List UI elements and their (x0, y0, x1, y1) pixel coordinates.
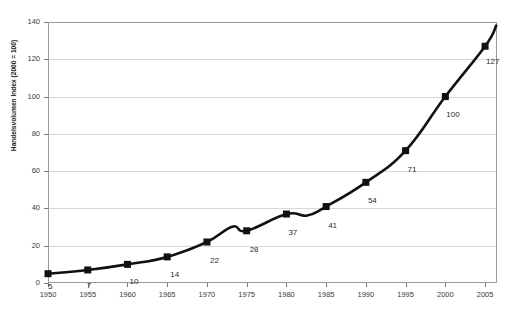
x-tick-label: 1990 (346, 291, 386, 299)
gridline (49, 246, 496, 247)
x-tick-label: 1975 (227, 291, 267, 299)
data-point-label: 37 (288, 229, 297, 237)
chart-container: Handelsvolumen Index (2000 = 100) 020406… (0, 0, 528, 311)
x-tick-label: 2000 (425, 291, 465, 299)
x-tick-mark (445, 283, 446, 287)
gridline (49, 97, 496, 98)
y-tick-label: 120 (10, 55, 40, 63)
data-point-label: 7 (87, 282, 91, 290)
x-tick-mark (127, 283, 128, 287)
y-tick-mark (44, 171, 48, 172)
x-tick-label: 1985 (306, 291, 346, 299)
y-tick-label: 100 (10, 93, 40, 101)
x-tick-label: 1995 (386, 291, 426, 299)
y-tick-label: 40 (10, 204, 40, 212)
data-point-label: 127 (486, 58, 499, 66)
y-tick-mark (44, 59, 48, 60)
data-point-label: 28 (250, 246, 259, 254)
x-tick-label: 1955 (68, 291, 108, 299)
x-tick-mark (286, 283, 287, 287)
y-tick-mark (44, 208, 48, 209)
gridline (49, 134, 496, 135)
x-tick-label: 1970 (187, 291, 227, 299)
x-tick-mark (366, 283, 367, 287)
x-tick-mark (406, 283, 407, 287)
x-tick-label: 1980 (266, 291, 306, 299)
x-tick-mark (207, 283, 208, 287)
data-point-label: 14 (170, 271, 179, 279)
plot-area (48, 22, 497, 283)
y-tick-label: 80 (10, 130, 40, 138)
data-point-label: 100 (446, 111, 459, 119)
y-tick-mark (44, 134, 48, 135)
data-point-label: 54 (368, 197, 377, 205)
x-tick-mark (485, 283, 486, 287)
x-tick-label: 1960 (107, 291, 147, 299)
data-point-label: 71 (408, 166, 417, 174)
y-tick-label: 20 (10, 242, 40, 250)
x-tick-label: 1965 (147, 291, 187, 299)
y-tick-mark (44, 97, 48, 98)
y-tick-label: 60 (10, 167, 40, 175)
y-tick-mark (44, 22, 48, 23)
x-tick-mark (167, 283, 168, 287)
x-tick-label: 1950 (28, 291, 68, 299)
x-tick-mark (326, 283, 327, 287)
x-tick-mark (247, 283, 248, 287)
x-tick-label: 2005 (465, 291, 505, 299)
y-tick-mark (44, 246, 48, 247)
data-point-label: 41 (328, 222, 337, 230)
y-tick-label: 0 (10, 279, 40, 287)
data-point-label: 5 (48, 283, 52, 291)
gridline (49, 208, 496, 209)
gridline (49, 171, 496, 172)
gridline (49, 59, 496, 60)
data-point-label: 10 (129, 278, 138, 286)
y-tick-label: 140 (10, 18, 40, 26)
data-point-label: 22 (210, 257, 219, 265)
